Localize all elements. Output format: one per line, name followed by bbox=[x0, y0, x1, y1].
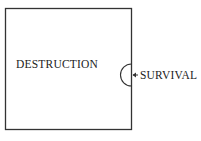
arrow-icon bbox=[133, 73, 139, 78]
diagram: DESTRUCTION SURVIVAL bbox=[0, 0, 201, 141]
survival-label: SURVIVAL bbox=[140, 69, 197, 81]
destruction-label: DESTRUCTION bbox=[16, 58, 99, 70]
survival-semicircle bbox=[121, 64, 132, 86]
